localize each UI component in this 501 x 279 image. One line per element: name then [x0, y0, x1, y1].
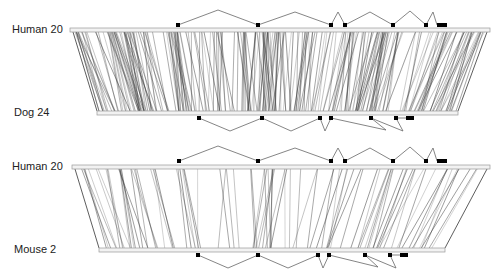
exon-icon	[391, 159, 395, 163]
exon-icon	[343, 159, 347, 163]
exon-icon	[256, 253, 260, 257]
exon-icon	[343, 23, 347, 27]
alignment-line	[88, 169, 116, 248]
exon-icon	[327, 253, 331, 257]
alignment-line	[279, 32, 284, 111]
alignment-line	[208, 32, 210, 111]
alignment-line	[271, 169, 287, 248]
top-chromosome-bar	[70, 28, 490, 32]
exon-icon	[329, 23, 333, 27]
exon-icon	[329, 159, 333, 163]
alignment-line	[327, 169, 354, 248]
exon-icon	[260, 116, 264, 120]
exon-icon	[316, 253, 320, 257]
exon-icon	[196, 253, 200, 257]
alignment-line	[297, 32, 308, 111]
alignment-line	[307, 169, 317, 248]
alignment-line	[367, 169, 391, 248]
alignment-line	[320, 32, 333, 111]
boundary-left	[73, 32, 97, 111]
alignment-line	[107, 169, 120, 248]
exon-icon	[388, 253, 392, 257]
alignment-line	[82, 169, 111, 248]
last-exon-icon	[437, 23, 447, 27]
last-exon-icon	[400, 253, 408, 257]
alignment-line	[414, 169, 447, 248]
exon-icon	[424, 159, 428, 163]
bottom-gene-introns	[199, 118, 406, 131]
alignment-line	[84, 169, 117, 248]
alignment-line	[233, 169, 239, 248]
exon-icon	[363, 253, 367, 257]
alignment-line	[237, 32, 238, 111]
alignment-line	[259, 32, 260, 111]
alignment-line	[81, 32, 115, 111]
alignment-line	[296, 169, 301, 248]
alignment-line	[155, 169, 173, 248]
alignment-line	[77, 32, 108, 111]
alignment-line	[386, 32, 416, 111]
alignment-line	[402, 169, 448, 248]
exon-icon	[391, 23, 395, 27]
last-exon-icon	[406, 116, 414, 120]
alignment-line	[315, 32, 330, 111]
alignment-line	[413, 169, 460, 248]
bottom-chromosome-bar	[97, 111, 458, 115]
exon-icon	[176, 23, 180, 27]
exon-icon	[197, 116, 201, 120]
exon-icon	[424, 23, 428, 27]
alignment-line	[136, 169, 148, 248]
top-chromosome-bar	[72, 165, 490, 169]
top-gene-introns	[178, 10, 437, 25]
last-exon-icon	[437, 159, 447, 163]
exon-icon	[369, 116, 373, 120]
alignment-line	[362, 32, 387, 111]
alignment-line	[404, 32, 421, 111]
bottom-gene-introns	[198, 255, 400, 268]
alignment-line	[199, 32, 200, 111]
alignment-line	[226, 169, 234, 248]
alignment-line	[85, 32, 108, 111]
exon-icon	[256, 159, 260, 163]
alignment-line	[182, 169, 195, 248]
exon-icon	[177, 159, 181, 163]
exon-icon	[329, 116, 333, 120]
alignment-line	[121, 169, 134, 248]
alignment-line	[137, 169, 156, 248]
alignment-line	[232, 32, 235, 111]
alignment-line	[429, 169, 476, 248]
alignment-line	[340, 169, 363, 248]
exon-icon	[318, 116, 322, 120]
alignment-line	[369, 169, 393, 248]
alignment-line	[422, 169, 453, 248]
bottom-chromosome-bar	[99, 248, 445, 252]
alignment-line	[452, 32, 481, 111]
alignment-line	[289, 169, 290, 248]
top-gene-introns	[179, 146, 437, 161]
alignment-line	[373, 169, 393, 248]
synteny-diagram	[0, 0, 501, 279]
exon-icon	[394, 116, 398, 120]
boundary-right	[445, 169, 487, 248]
alignment-line	[322, 169, 334, 248]
alignment-line	[379, 169, 424, 248]
exon-icon	[256, 23, 260, 27]
